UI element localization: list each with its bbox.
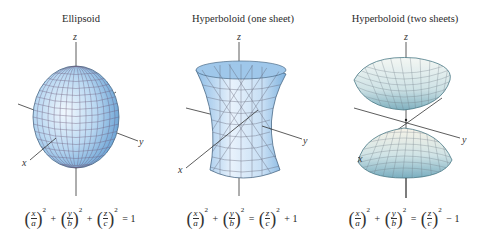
hyperboloid-two-sheets-equation: (xa)2 + (yb)2 = (zc)2 − 1	[324, 206, 486, 229]
x-axis-label: x	[21, 157, 27, 168]
y-axis-label: y	[302, 135, 308, 146]
ellipsoid-surface-plot: z x y	[0, 0, 162, 200]
y-axis-label: y	[461, 134, 467, 145]
hyperboloid-one-sheet-plot: z x y	[162, 0, 324, 200]
panel-hyperboloid-one-sheet: Hyperboloid (one sheet)	[162, 0, 324, 245]
z-axis-label: z	[236, 31, 241, 42]
y-axis	[117, 133, 138, 141]
ellipsoid-equation: (xa)2 + (yb)2 + (zc)2 = 1	[0, 206, 162, 229]
y-axis-label: y	[138, 136, 144, 147]
origin-point	[405, 119, 407, 121]
panel-hyperboloid-two-sheets: Hyperboloid (two sheets)	[324, 0, 486, 245]
hyperboloid-two-sheets-plot: z x y	[324, 0, 486, 200]
panel-ellipsoid: Ellipsoid	[0, 0, 162, 245]
hyperboloid-one-sheet-equation: (xa)2 + (yb)2 = (zc)2 + 1	[162, 206, 324, 229]
z-axis-label: z	[403, 31, 408, 42]
x-axis-label: x	[357, 153, 363, 164]
x-axis-label: x	[177, 164, 183, 175]
z-axis-label: z	[72, 31, 77, 42]
